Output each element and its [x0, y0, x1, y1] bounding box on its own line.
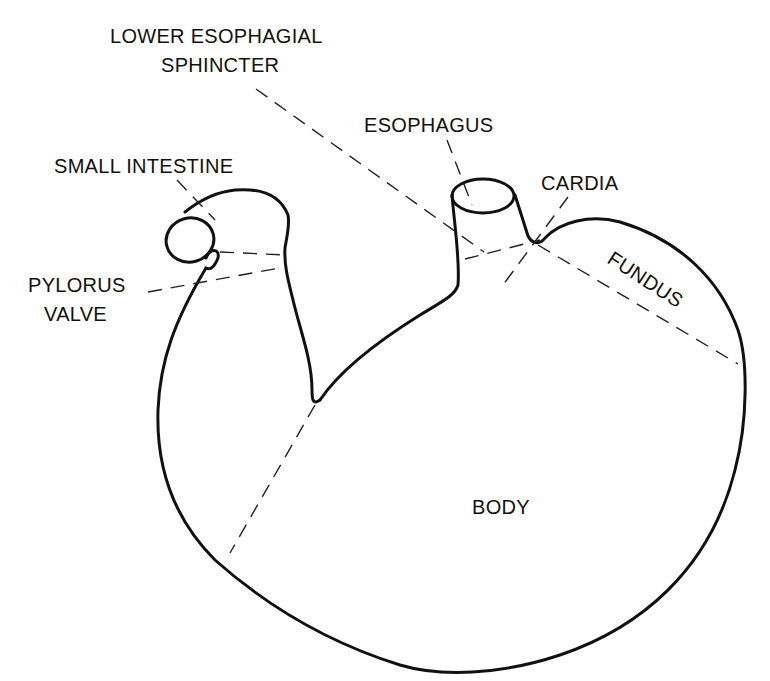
- label-esophagus: ESOPHAGUS: [364, 114, 493, 136]
- label-lower-esophageal-sphincter-2: SPHINCTER: [161, 54, 279, 76]
- pylorus-boundary-line: [220, 252, 285, 255]
- stomach-outline: [158, 195, 745, 672]
- label-fundus: FUNDUS: [604, 247, 687, 312]
- small-intestine-leader-line: [177, 180, 215, 220]
- label-cardia: CARDIA: [541, 172, 619, 194]
- label-pylorus-2: VALVE: [44, 303, 107, 325]
- body-antrum-boundary-line: [230, 405, 315, 553]
- pylorus-leader-line: [148, 268, 280, 292]
- esophagus-opening: [452, 179, 514, 213]
- stomach-diagram: LOWER ESOPHAGIAL SPHINCTER ESOPHAGUS SMA…: [0, 0, 770, 681]
- cardia-boundary-line: [465, 240, 540, 259]
- esophagus-left-wall: [320, 195, 458, 400]
- small-intestine-opening: [161, 213, 219, 268]
- diagram-canvas: LOWER ESOPHAGIAL SPHINCTER ESOPHAGUS SMA…: [0, 0, 770, 681]
- pylorus-lip: [206, 251, 218, 269]
- label-lower-esophageal-sphincter-1: LOWER ESOPHAGIAL: [110, 25, 323, 47]
- label-small-intestine: SMALL INTESTINE: [54, 155, 233, 177]
- label-body: BODY: [472, 496, 530, 518]
- label-pylorus-1: PYLORUS: [28, 274, 126, 296]
